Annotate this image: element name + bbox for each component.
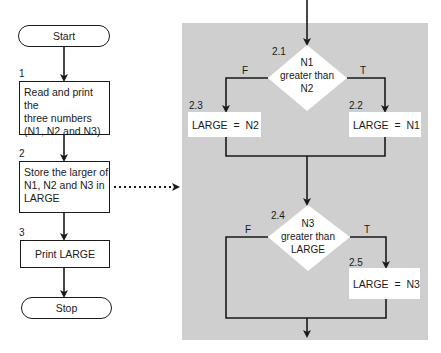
step-2-line-2: N1, N2 and N3 in <box>24 179 109 192</box>
step-1-line-2: three numbers <box>24 112 109 125</box>
assign-box-large-n3: LARGE = N3 <box>349 268 420 299</box>
decision-2-1-line-3: N2 <box>267 82 347 95</box>
decision-2-4-line-3: LARGE <box>268 243 348 256</box>
assign-large-n1-text: LARGE = N1 <box>353 119 420 131</box>
decision-2-1-line-1: N1 <box>267 56 347 69</box>
step-2-line-1: Store the larger of <box>24 166 109 179</box>
step-number-3: 3 <box>19 227 25 238</box>
step-number-2: 2 <box>19 148 25 159</box>
step-number-2-5: 2.5 <box>349 257 363 268</box>
process-box-print-large: Print LARGE <box>20 240 110 268</box>
stop-label: Stop <box>56 302 78 314</box>
stop-terminator: Stop <box>21 297 112 319</box>
step-number-2-3: 2.3 <box>189 100 203 111</box>
decision-2-4-text: N3 greater than LARGE <box>268 217 348 256</box>
decision-2-4-line-2: greater than <box>268 230 348 243</box>
assign-box-large-n1: LARGE = N1 <box>349 112 421 137</box>
start-label: Start <box>53 30 75 42</box>
assign-large-n3-text: LARGE = N3 <box>353 278 420 290</box>
process-box-store-larger: Store the larger of N1, N2 and N3 in LAR… <box>19 161 110 213</box>
decision-2-1-line-2: greater than <box>267 69 347 82</box>
decision-2-1-text: N1 greater than N2 <box>267 56 347 95</box>
process-box-read-numbers: Read and print the three numbers (N1, N2… <box>19 81 110 135</box>
decision-2-4-line-1: N3 <box>268 217 348 230</box>
start-terminator: Start <box>18 25 110 47</box>
decision-2-4-true-label: T <box>364 224 370 235</box>
step-1-line-3: (N1, N2 and N3) <box>24 125 109 138</box>
step-number-2-2: 2.2 <box>349 100 363 111</box>
step-3-line-1: Print LARGE <box>35 248 95 261</box>
assign-box-large-n2: LARGE = N2 <box>188 112 261 137</box>
decision-2-1-false-label: F <box>242 65 248 76</box>
decision-2-1-true-label: T <box>360 65 366 76</box>
decision-2-4-false-label: F <box>245 224 251 235</box>
flowchart-diagram: Start 1 Read and print the three numbers… <box>0 0 441 353</box>
step-number-1: 1 <box>19 68 25 79</box>
assign-large-n2-text: LARGE = N2 <box>192 119 259 131</box>
step-1-line-1: Read and print the <box>24 86 109 112</box>
step-2-line-3: LARGE <box>24 192 109 205</box>
